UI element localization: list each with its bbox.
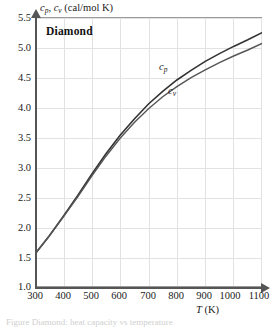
curve-label-cv: cv [168, 85, 176, 98]
x-axis-tick-labels: 300 400 500 600 700 800 900 1000 1100 [0, 290, 279, 306]
y-axis-line [35, 17, 37, 288]
y-tick-label: 3.5 [3, 133, 31, 143]
curve-label-cp: cp [159, 61, 167, 74]
y-tick-label: 5.5 [3, 13, 31, 23]
x-axis-title-units: (K) [202, 304, 219, 315]
y-axis-title-units: (cal/mol K) [62, 2, 113, 13]
curve-group [35, 17, 262, 287]
curve-label-cp-sub: p [164, 65, 168, 74]
caption-text: Figure Diamond: heat capacity vs tempera… [6, 318, 173, 327]
y-tick-label: 4.5 [3, 73, 31, 83]
y-tick-label: 4.0 [3, 103, 31, 113]
x-axis-title: T (K) [196, 304, 219, 315]
y-tick-label: 1.5 [3, 253, 31, 263]
y-tick-label: 2.0 [3, 223, 31, 233]
plot-title: Diamond [46, 25, 93, 37]
y-tick-label: 3.0 [3, 163, 31, 173]
y-axis-title: cp, cv (cal/mol K) [40, 2, 113, 15]
x-axis-line [35, 287, 263, 289]
curve-cv [35, 43, 262, 254]
curve-cp [35, 33, 262, 254]
x-tick-label: 1100 [242, 290, 276, 302]
curve-label-cv-sub: v [173, 89, 176, 98]
y-axis-title-mid: , c [48, 2, 58, 13]
figure-container: 5.5 5.0 4.5 4.0 3.5 3.0 2.5 2.0 1.5 1.0 … [0, 0, 279, 329]
caption-strip: Figure Diamond: heat capacity vs tempera… [0, 318, 279, 329]
y-axis-tick-labels: 5.5 5.0 4.5 4.0 3.5 3.0 2.5 2.0 1.5 1.0 [0, 0, 31, 329]
y-tick-label: 2.5 [3, 193, 31, 203]
y-tick-label: 5.0 [3, 43, 31, 53]
